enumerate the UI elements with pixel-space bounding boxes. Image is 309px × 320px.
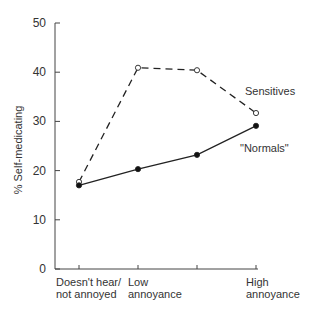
y-tick-label: 20 bbox=[33, 164, 47, 178]
y-tick-label: 0 bbox=[39, 262, 46, 276]
x-category-label: High bbox=[246, 276, 269, 288]
x-category-label: Doesn't hear/ bbox=[56, 276, 122, 288]
x-category-label: not annoyed bbox=[56, 288, 117, 300]
filled-circle-marker bbox=[194, 152, 199, 157]
line-chart: 01020304050 Doesn't hear/not annoyedLowa… bbox=[0, 0, 309, 320]
x-category-label: annoyance bbox=[128, 288, 182, 300]
y-tick-label: 30 bbox=[33, 114, 47, 128]
filled-circle-marker bbox=[76, 183, 81, 188]
filled-circle-marker bbox=[253, 123, 258, 128]
series-line bbox=[79, 126, 256, 186]
open-circle-marker bbox=[194, 68, 199, 73]
x-category-label: Low bbox=[128, 276, 148, 288]
legend-label-normals: "Normals" bbox=[240, 142, 289, 154]
series-line bbox=[79, 68, 256, 182]
y-tick-label: 40 bbox=[33, 65, 47, 79]
y-axis-label: % Self-medicating bbox=[12, 106, 24, 195]
legend-label-sensitives: Sensitives bbox=[245, 85, 296, 97]
y-axis: 01020304050 bbox=[33, 16, 60, 276]
x-category-label: annoyance bbox=[246, 288, 300, 300]
open-circle-marker bbox=[253, 110, 258, 115]
y-tick-label: 10 bbox=[33, 213, 47, 227]
series-layer bbox=[76, 65, 258, 188]
open-circle-marker bbox=[135, 65, 140, 70]
filled-circle-marker bbox=[135, 167, 140, 172]
y-tick-label: 50 bbox=[33, 16, 47, 30]
x-axis: Doesn't hear/not annoyedLowannoyanceHigh… bbox=[55, 265, 300, 300]
